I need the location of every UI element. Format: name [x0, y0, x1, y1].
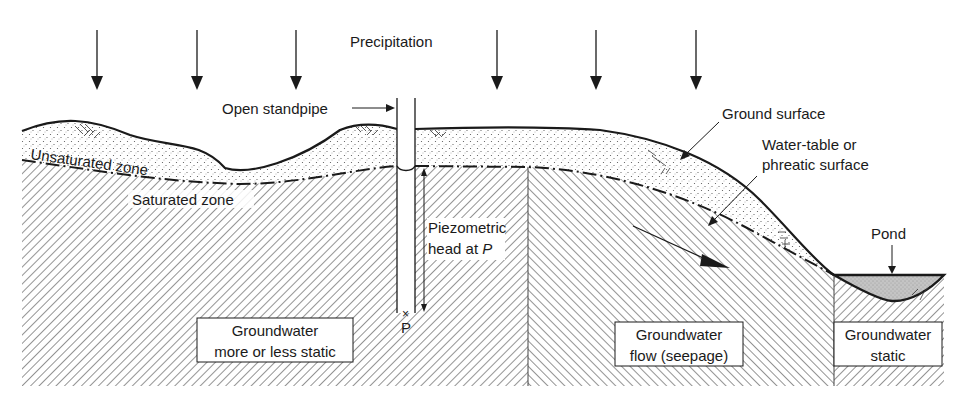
open-standpipe-label: Open standpipe [222, 100, 328, 117]
pond-label: Pond [871, 225, 906, 242]
pond-pointer-arrow-icon [888, 245, 896, 274]
box-pond-zone: Groundwater static [834, 322, 942, 366]
precipitation-arrow-icon [590, 30, 602, 90]
box-seepage-line1: Groundwater [636, 326, 723, 343]
groundwater-diagram: Precipitation Open standpipe × P [0, 0, 967, 400]
precipitation-arrow-icon [290, 30, 302, 90]
piezometric-label-line2: head at P [428, 240, 492, 257]
box-seepage-line2: flow (seepage) [630, 347, 728, 364]
box-static-line2: more or less static [214, 343, 336, 360]
precipitation-label: Precipitation [350, 33, 433, 50]
precipitation-arrow-icon [491, 30, 503, 90]
standpipe-pointer-arrow-icon [352, 104, 395, 112]
precipitation-arrow-icon [91, 30, 103, 90]
point-p-label: P [401, 319, 411, 336]
water-table-label-line2: phreatic surface [762, 156, 869, 173]
saturated-zone-label: Saturated zone [132, 191, 234, 208]
precipitation-arrow-icon [690, 30, 702, 90]
box-static-zone: Groundwater more or less static [197, 318, 353, 362]
ground-surface-pointer-arrow-icon [680, 122, 719, 160]
precipitation-arrow-icon [191, 30, 203, 90]
piezometric-label-line1: Piezometric [428, 219, 507, 236]
open-standpipe [397, 98, 415, 313]
box-static-line1: Groundwater [232, 322, 319, 339]
ground-surface-label: Ground surface [722, 105, 825, 122]
box-seepage-zone: Groundwater flow (seepage) [615, 322, 743, 366]
box-pond-line1: Groundwater [845, 326, 932, 343]
box-pond-line2: static [870, 347, 906, 364]
water-table-label-line1: Water-table or [762, 136, 856, 153]
